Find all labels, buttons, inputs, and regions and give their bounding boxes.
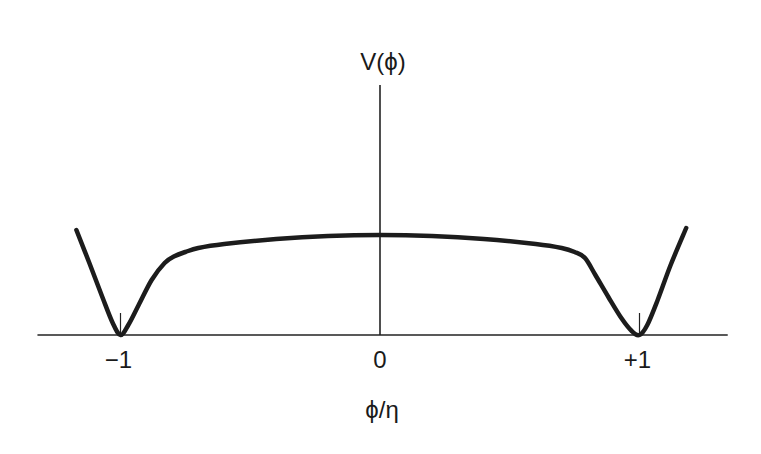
tick-labels: −10+1	[105, 346, 651, 373]
y-axis-label: V(ϕ)	[360, 48, 405, 75]
x-axis-label: ϕ/η	[365, 396, 398, 423]
x-tick-label: 0	[373, 346, 386, 373]
x-tick-label: −1	[105, 346, 132, 373]
x-tick-label: +1	[624, 346, 651, 373]
potential-curve	[76, 228, 686, 335]
potential-diagram: −10+1 V(ϕ) ϕ/η	[0, 0, 761, 454]
